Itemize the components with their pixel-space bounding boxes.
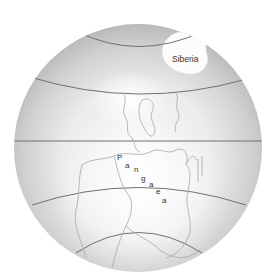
pangaea-letter: a [162,196,167,205]
pangaea-landmass [50,115,230,275]
label-siberia: Siberia [172,54,199,64]
pangaea-letter: e [156,187,161,196]
pangaea-letter: a [125,161,130,170]
pangaea-letter: n [134,165,138,174]
globe-map: Siberia P a n g a e a [0,0,277,280]
pangaea-letter: P [117,153,122,162]
pangaea-letter: a [149,180,154,189]
pangaea-letter: g [141,174,145,183]
north-landmass [90,70,170,130]
